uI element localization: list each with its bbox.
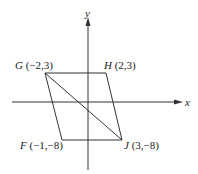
point-coords-F: (−1,−8)	[29, 139, 63, 152]
point-coords-G: (−2,3)	[26, 59, 54, 72]
point-name-J: J	[124, 139, 130, 151]
point-name-G: G	[15, 59, 23, 71]
y-axis-label: y	[84, 7, 90, 19]
point-name-F: F	[19, 139, 27, 151]
x-axis-label: x	[184, 96, 190, 108]
point-coords-H: (2,3)	[115, 59, 136, 72]
point-label-G: G (−2,3)	[15, 59, 53, 72]
point-name-H: H	[103, 59, 113, 71]
point-label-F: F (−1,−8)	[19, 139, 63, 152]
point-label-J: J (3,−8)	[124, 139, 159, 152]
point-label-H: H (2,3)	[103, 59, 136, 72]
x-axis-arrow-icon	[174, 100, 183, 105]
point-coords-J: (3,−8)	[132, 139, 160, 152]
coordinate-diagram: x y G (−2,3) H (2,3) F (−1,−8) J (3,−8)	[0, 0, 198, 174]
diagonal-GJ	[45, 73, 122, 140]
